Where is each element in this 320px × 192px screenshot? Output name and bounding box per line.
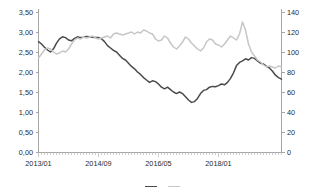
- x-axis-label: 2016/05: [145, 159, 171, 168]
- left-axis-label: 3,00: [19, 28, 33, 37]
- right-axis-label: 100: [287, 48, 299, 57]
- right-axis-label: 20: [287, 128, 295, 137]
- left-axis-label: 0,50: [19, 128, 33, 137]
- legend-swatch-dark: [145, 186, 157, 187]
- chart-legend: [0, 185, 320, 192]
- legend-row: [0, 185, 320, 189]
- right-axis-label: 0: [287, 148, 291, 157]
- series-line-dark: [39, 36, 282, 102]
- legend-swatch-light: [168, 186, 180, 187]
- left-axis-label: 2,00: [19, 68, 33, 77]
- x-axis-label: 2018/01: [205, 159, 231, 168]
- x-axis-label: 2013/01: [25, 159, 51, 168]
- line-chart: 0,000,501,001,502,002,503,003,5002040608…: [0, 0, 320, 192]
- right-axis-label: 60: [287, 88, 295, 97]
- x-axis-label: 2014/09: [85, 159, 111, 168]
- right-axis-label: 120: [287, 28, 299, 37]
- left-axis-label: 3,50: [19, 8, 33, 17]
- right-axis-label: 80: [287, 68, 295, 77]
- series-line-light: [39, 22, 282, 68]
- right-axis-label: 140: [287, 8, 299, 17]
- left-axis-label: 0,00: [19, 148, 33, 157]
- left-axis-label: 2,50: [19, 48, 33, 57]
- left-axis-label: 1,50: [19, 88, 33, 97]
- chart-container: 0,000,501,001,502,002,503,003,5002040608…: [0, 0, 320, 192]
- right-axis-label: 40: [287, 108, 295, 117]
- left-axis-label: 1,00: [19, 108, 33, 117]
